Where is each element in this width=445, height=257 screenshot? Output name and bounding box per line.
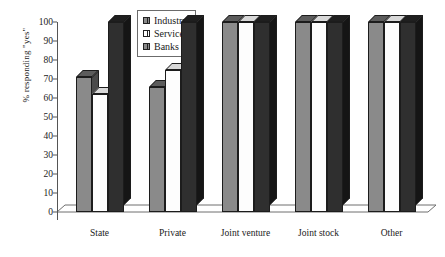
bar xyxy=(222,22,238,212)
bar xyxy=(368,22,384,212)
bar-face xyxy=(368,22,384,212)
banks-swatch-icon xyxy=(143,43,150,50)
bar-face xyxy=(400,22,416,212)
bar-face xyxy=(311,22,327,212)
bar-group xyxy=(276,14,349,220)
bar-side xyxy=(197,15,204,205)
bar-face xyxy=(254,22,270,212)
bar xyxy=(295,22,311,212)
plot-area: 0102030405060708090100 xyxy=(57,14,436,220)
bar-group xyxy=(349,14,422,220)
y-axis-title: % responding "yes" xyxy=(21,0,31,135)
bar-face xyxy=(238,22,254,212)
bar-face xyxy=(92,94,108,212)
bar-face xyxy=(327,22,343,212)
bar-face xyxy=(384,22,400,212)
x-tick-label: Joint stock xyxy=(298,228,339,238)
bar xyxy=(384,22,400,212)
x-tick-label: Private xyxy=(159,228,186,238)
x-tick-label: Other xyxy=(381,228,403,238)
y-tick-label: 30 xyxy=(44,150,54,160)
x-tick-label: State xyxy=(90,228,109,238)
bar-side xyxy=(416,15,423,205)
y-tick-label: 60 xyxy=(44,93,54,103)
bar xyxy=(76,77,92,212)
bar-side xyxy=(343,15,350,205)
bar-side xyxy=(124,15,131,205)
y-tick-label: 10 xyxy=(44,188,54,198)
bar xyxy=(165,70,181,213)
services-swatch-icon xyxy=(143,30,150,37)
y-tick-label: 20 xyxy=(44,169,54,179)
bar-group xyxy=(57,14,130,220)
y-tick-label: 50 xyxy=(44,112,54,122)
bar xyxy=(311,22,327,212)
bar xyxy=(400,22,416,212)
bar-face xyxy=(108,22,124,212)
bar xyxy=(254,22,270,212)
bar-face xyxy=(149,87,165,212)
y-tick-label: 90 xyxy=(44,36,54,46)
bar-face xyxy=(165,70,181,213)
bar-chart: % responding "yes" 010203040506070809010… xyxy=(0,0,445,257)
bar xyxy=(149,87,165,212)
bar xyxy=(181,22,197,212)
y-tick-label: 80 xyxy=(44,55,54,65)
y-tick-label: 100 xyxy=(39,17,53,27)
bar-face xyxy=(222,22,238,212)
bar-face xyxy=(295,22,311,212)
y-tick-label: 40 xyxy=(44,131,54,141)
bar xyxy=(327,22,343,212)
legend-label-banks: Banks xyxy=(154,41,179,52)
x-tick-label: Joint venture xyxy=(221,228,270,238)
industry-swatch-icon xyxy=(143,17,150,24)
bar xyxy=(238,22,254,212)
bar xyxy=(108,22,124,212)
bar-group xyxy=(203,14,276,220)
bar-side xyxy=(270,15,277,205)
bar-face xyxy=(76,77,92,212)
bar-face xyxy=(181,22,197,212)
y-tick-label: 70 xyxy=(44,74,54,84)
bar xyxy=(92,94,108,212)
